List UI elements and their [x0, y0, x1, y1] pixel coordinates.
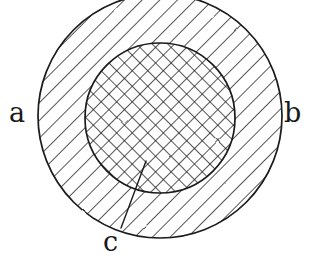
label-c: c [103, 228, 118, 255]
label-a: a [9, 99, 25, 126]
diagram-canvas [0, 0, 313, 262]
label-b: b [284, 99, 301, 126]
figure-container: a b c [0, 0, 313, 262]
